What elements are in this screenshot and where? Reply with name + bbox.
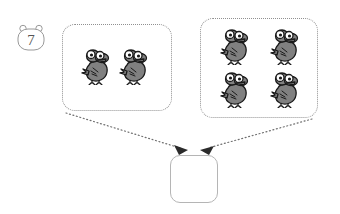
- arrow-left-to-answer-head: [174, 145, 188, 155]
- first-addend-group[interactable]: [62, 24, 172, 111]
- bird-icon: [269, 27, 301, 65]
- bird-icon: [269, 70, 301, 108]
- worksheet-canvas: 7: [0, 0, 340, 214]
- bird-icon: [80, 47, 112, 85]
- arrow-left-to-answer-line: [66, 113, 180, 148]
- bird-icon: [219, 27, 251, 65]
- arrow-right-to-answer-line: [208, 119, 312, 148]
- question-number-badge: 7: [14, 24, 48, 52]
- answer-box[interactable]: [170, 155, 218, 203]
- arrow-right-to-answer-head: [200, 146, 214, 155]
- bird-icon: [219, 70, 251, 108]
- bird-icon: [118, 47, 150, 85]
- question-number-text: 7: [27, 32, 35, 48]
